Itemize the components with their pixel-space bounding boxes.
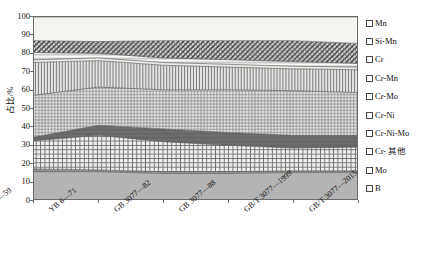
x-tick-mark xyxy=(293,200,294,203)
legend-swatch-icon xyxy=(366,185,373,192)
legend-swatch-icon xyxy=(366,130,373,137)
x-tick-mark xyxy=(228,200,229,203)
y-tick-label: 40 xyxy=(22,122,31,131)
x-tick-mark xyxy=(358,200,359,203)
legend-item-Cr-其他[interactable]: Cr- 其他 xyxy=(366,143,428,161)
legend-label: Cr xyxy=(375,55,384,64)
legend: MnSi-MnCrCr-MnCr-MoCr-NiCr-Ni-MoCr- 其他Mo… xyxy=(366,14,428,198)
legend-item-Cr-Ni-Mo[interactable]: Cr-Ni-Mo xyxy=(366,124,428,142)
legend-item-Si-Mn[interactable]: Si-Mn xyxy=(366,32,428,50)
y-tick-label: 100 xyxy=(17,12,30,21)
x-tick-mark xyxy=(33,200,34,203)
stacked-area-chart: 占比/% 0102030405060708090100 xyxy=(0,0,429,267)
legend-swatch-icon xyxy=(366,38,373,45)
legend-item-Cr[interactable]: Cr xyxy=(366,51,428,69)
legend-swatch-icon xyxy=(366,20,373,27)
legend-item-Cr-Mn[interactable]: Cr-Mn xyxy=(366,69,428,87)
legend-swatch-icon xyxy=(366,93,373,100)
legend-label: Cr-Ni-Mo xyxy=(375,129,409,138)
legend-swatch-icon xyxy=(366,167,373,174)
legend-label: Cr- 其他 xyxy=(375,147,406,156)
legend-item-Mn[interactable]: Mn xyxy=(366,14,428,32)
y-tick-label: 90 xyxy=(22,30,31,39)
legend-swatch-icon xyxy=(366,148,373,155)
area-band-Mn xyxy=(34,17,357,43)
x-tick-mark xyxy=(98,200,99,203)
plot-area xyxy=(33,16,358,200)
y-tick-label: 80 xyxy=(22,48,31,57)
y-tick-label: 50 xyxy=(22,104,31,113)
y-axis-title: 占比/% xyxy=(6,75,15,127)
legend-swatch-icon xyxy=(366,75,373,82)
legend-label: Cr-Mo xyxy=(375,92,398,101)
y-tick-label: 10 xyxy=(22,177,31,186)
y-tick-label: 20 xyxy=(22,159,31,168)
y-tick-label: 60 xyxy=(22,85,31,94)
legend-label: Cr-Ni xyxy=(375,111,395,120)
legend-label: Mn xyxy=(375,19,387,28)
legend-item-Mo[interactable]: Mo xyxy=(366,161,428,179)
x-tick-mark xyxy=(163,200,164,203)
legend-item-Cr-Mo[interactable]: Cr-Mo xyxy=(366,88,428,106)
legend-label: B xyxy=(375,184,381,193)
areas-svg xyxy=(34,17,357,199)
legend-label: Si-Mn xyxy=(375,37,397,46)
legend-item-Cr-Ni[interactable]: Cr-Ni xyxy=(366,106,428,124)
y-axis: 占比/% 0102030405060708090100 xyxy=(0,0,33,216)
legend-label: Cr-Mn xyxy=(375,74,398,83)
legend-item-B[interactable]: B xyxy=(366,180,428,198)
y-tick-label: 70 xyxy=(22,67,31,76)
legend-swatch-icon xyxy=(366,56,373,63)
legend-label: Mo xyxy=(375,166,387,175)
legend-swatch-icon xyxy=(366,112,373,119)
y-tick-label: 30 xyxy=(22,140,31,149)
